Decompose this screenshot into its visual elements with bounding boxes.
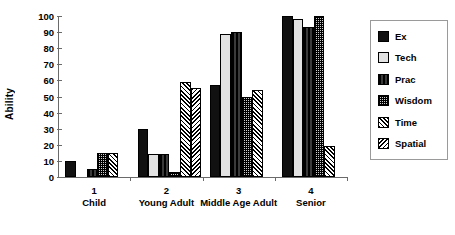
bar-tech-4 [293, 19, 304, 177]
bar-time-1 [108, 153, 119, 177]
bar-wisdom-3 [242, 97, 253, 178]
x-group-separator [347, 177, 348, 181]
legend: ExTechPracWisdomTimeSpatial [370, 20, 448, 160]
legend-item-spatial[interactable]: Spatial [378, 138, 426, 150]
x-group-separator [275, 177, 276, 181]
bar-wisdom-2 [169, 172, 180, 177]
legend-label: Ex [395, 31, 407, 42]
legend-swatch-time-icon [378, 117, 389, 128]
bar-prac-2 [159, 154, 170, 177]
legend-label: Spatial [395, 138, 426, 149]
y-tick-label: 60 [43, 75, 54, 86]
x-axis-group-label: 4Senior [251, 185, 371, 209]
legend-label: Wisdom [395, 95, 432, 106]
bars-container [59, 16, 348, 177]
bar-prac-4 [303, 27, 314, 177]
legend-item-ex[interactable]: Ex [378, 30, 407, 42]
bar-time-2 [180, 82, 191, 177]
y-tick-label: 0 [49, 172, 54, 183]
legend-swatch-tech-icon [378, 52, 389, 63]
legend-swatch-prac-icon [378, 74, 389, 85]
bar-spatial-2 [191, 88, 202, 177]
legend-label: Time [395, 117, 417, 128]
x-group-separator [203, 177, 204, 181]
x-group-separator [130, 177, 131, 181]
y-tick-label: 30 [43, 123, 54, 134]
legend-swatch-wisdom-icon [378, 95, 389, 106]
bar-wisdom-1 [97, 153, 108, 177]
y-tick-mark [57, 161, 62, 162]
y-tick-mark [57, 177, 62, 178]
bar-time-4 [324, 146, 335, 177]
y-tick-mark [57, 97, 62, 98]
y-tick-mark [57, 145, 62, 146]
bar-ex-3 [210, 85, 221, 177]
y-tick-label: 80 [43, 43, 54, 54]
bar-ex-1 [65, 161, 76, 177]
y-tick-mark [57, 64, 62, 65]
bar-wisdom-4 [314, 16, 325, 177]
y-tick-mark [57, 48, 62, 49]
legend-label: Prac [395, 74, 416, 85]
y-tick-mark [57, 16, 62, 17]
y-tick-label: 20 [43, 139, 54, 150]
y-tick-label: 40 [43, 107, 54, 118]
y-tick-label: 90 [43, 27, 54, 38]
legend-item-time[interactable]: Time [378, 116, 417, 128]
y-tick-label: 10 [43, 155, 54, 166]
y-tick-mark [57, 80, 62, 81]
bar-ex-4 [282, 16, 293, 177]
y-tick-label: 50 [43, 91, 54, 102]
y-tick-mark [57, 113, 62, 114]
bar-time-3 [252, 90, 263, 177]
bar-ex-2 [138, 129, 149, 177]
x-group-number: 4 [251, 185, 371, 197]
y-axis-title: Ability [2, 56, 16, 152]
y-tick-mark [57, 32, 62, 33]
bar-tech-3 [220, 34, 231, 177]
legend-swatch-spatial-icon [378, 138, 389, 149]
legend-item-wisdom[interactable]: Wisdom [378, 95, 432, 107]
bar-prac-3 [231, 32, 242, 177]
plot-area [58, 16, 348, 178]
bar-prac-1 [87, 169, 98, 177]
legend-label: Tech [395, 52, 416, 63]
chart-root: Ability 1009080706050403020100 1Child2Yo… [0, 0, 455, 235]
legend-item-tech[interactable]: Tech [378, 52, 416, 64]
y-tick-label: 70 [43, 59, 54, 70]
x-group-name: Senior [251, 197, 371, 209]
y-axis-tick-labels: 1009080706050403020100 [22, 16, 54, 178]
y-tick-mark [57, 129, 62, 130]
y-tick-label: 100 [38, 11, 54, 22]
legend-swatch-ex-icon [378, 31, 389, 42]
bar-tech-2 [148, 154, 159, 177]
legend-item-prac[interactable]: Prac [378, 73, 416, 85]
